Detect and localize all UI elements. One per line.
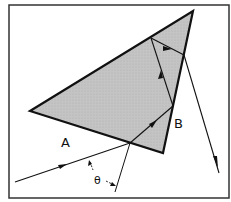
angle-arrow-upper xyxy=(88,160,92,166)
prism-diagram: A B θ xyxy=(0,0,231,202)
exit-ray xyxy=(184,55,219,173)
label-face-b: B xyxy=(174,116,183,131)
prism-triangle xyxy=(30,11,193,153)
angle-arrow-lower xyxy=(110,182,116,186)
label-face-a: A xyxy=(61,135,70,150)
arrowhead-incident xyxy=(58,164,67,169)
normal-line-face-a xyxy=(115,143,130,192)
incident-ray xyxy=(15,143,130,182)
label-angle-theta: θ xyxy=(94,174,101,187)
arrowhead-exit xyxy=(213,156,218,168)
